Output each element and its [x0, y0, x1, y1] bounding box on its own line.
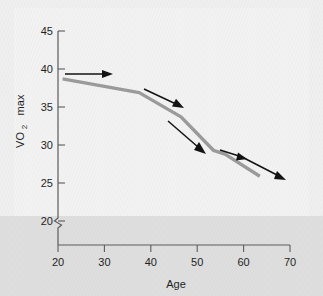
y-axis-title-subscript: 2 [20, 124, 29, 129]
y-axis-break-icon [55, 212, 62, 245]
x-axis: 20 30 40 50 60 70 Age [52, 245, 296, 290]
trend-arrow-2-head [172, 99, 184, 108]
y-axis-title: VO 2 max [14, 94, 29, 148]
y-axis-title-tail: max [14, 94, 26, 115]
y-axis: 45 40 35 30 25 20 [41, 25, 65, 245]
x-tick-label-20: 20 [52, 256, 64, 268]
x-tick-label-30: 30 [98, 256, 110, 268]
y-tick-label-20: 20 [41, 215, 53, 227]
trend-arrow-1 [65, 70, 113, 78]
x-axis-title: Age [166, 278, 186, 290]
x-tick-label-50: 50 [191, 256, 203, 268]
x-tick-label-60: 60 [237, 256, 249, 268]
x-tick-label-40: 40 [145, 256, 157, 268]
vo2-max-series-line [63, 79, 260, 176]
trend-arrow-1-head [102, 70, 113, 78]
y-tick-label-45: 45 [41, 25, 53, 37]
chart-svg: 45 40 35 30 25 20 VO 2 max 20 30 40 50 [0, 0, 323, 296]
y-tick-label-35: 35 [41, 101, 53, 113]
x-tick-label-70: 70 [284, 256, 296, 268]
y-tick-label-30: 30 [41, 139, 53, 151]
y-tick-label-40: 40 [41, 63, 53, 75]
chart-figure: 45 40 35 30 25 20 VO 2 max 20 30 40 50 [0, 0, 323, 296]
trend-arrow-5-head [274, 171, 286, 180]
y-tick-label-25: 25 [41, 177, 53, 189]
trend-arrow-3-head [194, 142, 206, 154]
y-axis-title-main: VO [14, 132, 26, 148]
